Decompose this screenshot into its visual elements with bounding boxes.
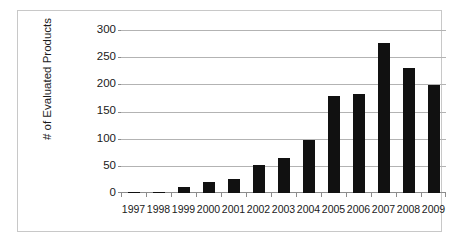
bar [428, 85, 440, 193]
bar [203, 182, 215, 193]
y-axis-tick-label: 50 [103, 160, 116, 171]
bar-slot [421, 30, 446, 193]
bar-slot [371, 30, 396, 193]
y-axis-tick-label: 0 [110, 187, 116, 198]
bar-slot [171, 30, 196, 193]
x-axis-tick-mark [371, 193, 372, 197]
y-axis-title: # of Evaluated Products [41, 4, 53, 154]
x-axis-tick-slot [321, 193, 346, 197]
x-axis-tick-label: 1999 [171, 203, 196, 215]
bar [403, 68, 415, 193]
y-axis-tick-label: 300 [97, 24, 116, 35]
x-axis-tick-label: 2009 [421, 203, 446, 215]
x-axis-tick-mark [121, 193, 122, 197]
x-axis-tick-labels: 1997 1998 1999 2000 2001 2002 2003 2004 … [121, 203, 446, 215]
y-axis-tick-label: 100 [97, 133, 116, 144]
bar [303, 140, 315, 193]
x-axis-tick-label: 2007 [371, 203, 396, 215]
x-axis-tick-mark [221, 193, 222, 197]
x-axis-tick-label: 2001 [221, 203, 246, 215]
x-axis-tick-slot [146, 193, 171, 197]
x-axis-tick-mark [271, 193, 272, 197]
x-axis-tick-slot [171, 193, 196, 197]
bar-slot [196, 30, 221, 193]
x-axis-tick-mark [146, 193, 147, 197]
bar-slot [146, 30, 171, 193]
x-axis-tick-mark [396, 193, 397, 197]
x-axis-tick-label: 2002 [246, 203, 271, 215]
bar [278, 158, 290, 193]
bar-slot [321, 30, 346, 193]
x-axis-tick-label: 2000 [196, 203, 221, 215]
y-axis-tick-label: 200 [97, 78, 116, 89]
bar [328, 96, 340, 193]
x-axis-tick-mark [196, 193, 197, 197]
y-axis-tick-label: 250 [97, 51, 116, 62]
bar-slot [346, 30, 371, 193]
x-axis-tick-label: 2008 [396, 203, 421, 215]
bar [353, 94, 365, 193]
x-axis-tick-slot [196, 193, 221, 197]
x-axis-tick-mark [445, 193, 446, 197]
bar-slot [271, 30, 296, 193]
x-axis-tick-mark [346, 193, 347, 197]
x-axis-tick-label: 2003 [271, 203, 296, 215]
x-axis-tick-slot [421, 193, 446, 197]
x-axis-tick-mark [296, 193, 297, 197]
x-axis-tick-mark [246, 193, 247, 197]
x-axis-tick-mark [321, 193, 322, 197]
bar-slot [221, 30, 246, 193]
bar-slot [396, 30, 421, 193]
x-axis-tick-mark [421, 193, 422, 197]
x-axis-tick-marks [121, 193, 446, 197]
bar-slot [246, 30, 271, 193]
y-axis-tick-label: 150 [97, 105, 116, 116]
bar [253, 165, 265, 193]
x-axis-tick-label: 1997 [121, 203, 146, 215]
bar [378, 43, 390, 193]
x-axis-tick-slot [396, 193, 421, 197]
bar [228, 179, 240, 193]
x-axis-tick-slot [296, 193, 321, 197]
chart-frame: 300 250 200 150 100 50 0 # of Evaluated … [17, 10, 442, 232]
x-axis-tick-label: 1998 [146, 203, 171, 215]
x-axis-tick-label: 2004 [296, 203, 321, 215]
x-axis-tick-slot [221, 193, 246, 197]
x-axis-tick-mark [171, 193, 172, 197]
plot-area [121, 30, 446, 193]
x-axis-tick-label: 2005 [321, 203, 346, 215]
x-axis-tick-slot [271, 193, 296, 197]
x-axis-tick-slot [121, 193, 146, 197]
x-axis-tick-slot [371, 193, 396, 197]
bar-slot [121, 30, 146, 193]
x-axis-tick-slot [246, 193, 271, 197]
x-axis-tick-slot [346, 193, 371, 197]
bar-slot [296, 30, 321, 193]
bar-series [121, 30, 446, 193]
x-axis-tick-label: 2006 [346, 203, 371, 215]
y-axis-tick-labels: 300 250 200 150 100 50 0 [64, 30, 116, 193]
